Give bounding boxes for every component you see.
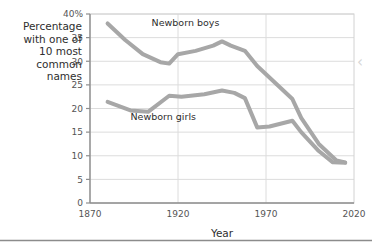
y-tick-label: 15: [72, 127, 83, 137]
y-axis-title-line: common: [36, 58, 82, 70]
x-axis-ticks: 1870192019702020: [79, 209, 366, 219]
y-tick-label: 0: [77, 198, 83, 208]
series-label: Newborn boys: [152, 17, 220, 28]
series-label: Newborn girls: [130, 111, 196, 122]
y-axis-title-line: with one of: [23, 33, 82, 45]
x-tick-label: 1870: [79, 209, 102, 219]
chart-figure: 0510152025303540% 1870192019702020 Perce…: [0, 0, 372, 247]
y-tick-label: 10: [72, 151, 84, 161]
chevron-left-icon[interactable]: ‹: [357, 53, 363, 71]
x-axis-title: Year: [210, 227, 234, 239]
x-tick-label: 1970: [255, 209, 278, 219]
y-axis-title: Percentagewith one of10 mostcommonnames: [23, 20, 82, 82]
y-axis-title-line: 10 most: [39, 45, 82, 57]
x-tick-label: 1920: [167, 209, 190, 219]
y-tick-label: 5: [77, 175, 83, 185]
line-chart: 0510152025303540% 1870192019702020 Perce…: [0, 0, 372, 247]
y-axis-title-line: names: [47, 70, 82, 82]
x-tick-label: 2020: [343, 209, 366, 219]
y-axis-title-line: Percentage: [23, 20, 82, 32]
y-tick-label: 40%: [63, 9, 83, 19]
y-tick-label: 20: [72, 104, 84, 114]
